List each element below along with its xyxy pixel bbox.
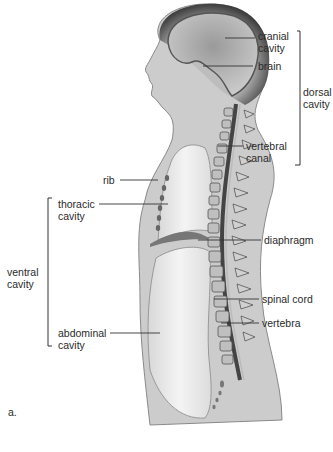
label-abdominal-cavity: abdominal cavity [58,327,106,351]
label-rib: rib [103,174,115,186]
label-dorsal-cavity: dorsal cavity [303,86,332,110]
label-thoracic-cavity: thoracic cavity [58,198,95,222]
label-vertebra: vertebra [262,317,301,329]
body-cavities-diagram [0,0,333,452]
label-ventral-cavity: ventral cavity [7,266,39,290]
label-cranial-cavity: cranial cavity [258,30,289,54]
label-vertebral-canal: vertebral canal [246,140,287,164]
panel-label: a. [8,406,17,418]
label-diaphragm: diaphragm [264,234,314,246]
label-spinal-cord: spinal cord [262,293,313,305]
label-brain: brain [258,60,281,72]
